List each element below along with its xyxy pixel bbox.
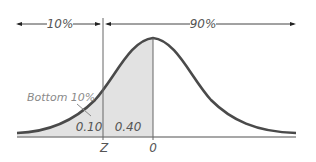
arrow-left-head-icon	[105, 22, 111, 26]
normal-curve	[17, 38, 296, 133]
axis-label-z: Z	[99, 141, 109, 155]
axis-label-zero: 0	[149, 141, 157, 155]
normal-curve-diagram: 10% 90% Bottom 10% 0.10 0.40 Z 0	[0, 0, 316, 162]
label-10pct: 10%	[47, 17, 74, 31]
arrow-right-head-icon	[290, 22, 296, 26]
arrow-left-head-icon	[16, 22, 22, 26]
area-middle-label: 0.40	[115, 120, 142, 134]
bottom-10pct-annotation: Bottom 10%	[27, 91, 95, 104]
label-90pct: 90%	[190, 17, 217, 31]
arrow-right-head-icon	[95, 22, 101, 26]
area-left-tail-label: 0.10	[76, 120, 103, 134]
